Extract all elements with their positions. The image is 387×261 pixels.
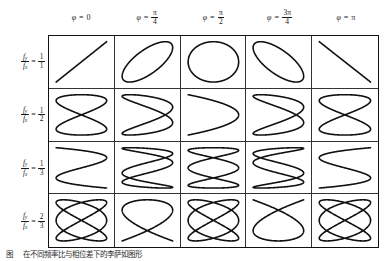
lissajous-cell-r2-c2 xyxy=(181,142,247,195)
denominator-fx: fx xyxy=(21,115,28,124)
ratio-value-fraction: 12 xyxy=(38,107,45,124)
phi-symbol: φ xyxy=(72,14,76,22)
phi-symbol: φ xyxy=(336,14,340,22)
lissajous-cell-r0-c3 xyxy=(246,36,312,89)
lissajous-curve xyxy=(254,200,305,241)
figure-caption: 图在不同频率比与相位差下的李萨如图形 xyxy=(6,250,381,259)
row-header-ratio-1: fyfx=12 xyxy=(0,88,48,141)
lissajous-cell-r1-c0 xyxy=(49,89,115,142)
lissajous-cell-r1-c1 xyxy=(115,89,181,142)
lissajous-cell-r0-c1 xyxy=(115,36,181,89)
subscript-x: x xyxy=(25,64,27,70)
lissajous-curve xyxy=(254,42,305,82)
ratio-value-fraction: 13 xyxy=(38,160,45,177)
subscript-y: y xyxy=(25,161,27,167)
row-header-ratio-3: fyfx=23 xyxy=(0,195,48,248)
phase-value: 0 xyxy=(87,14,91,22)
lissajous-curve xyxy=(188,42,239,82)
lissajous-table xyxy=(48,35,379,248)
frequency-ratio-fraction: fyfx xyxy=(21,212,28,230)
equals-sign: = xyxy=(30,217,37,226)
denominator-fx: fx xyxy=(21,169,28,178)
equals-sign: = xyxy=(78,14,85,22)
lissajous-cell-r2-c3 xyxy=(246,142,312,195)
equals-sign: = xyxy=(209,14,216,22)
frequency-ratio-fraction: fyfx xyxy=(21,159,28,177)
equals-sign: = xyxy=(30,110,37,119)
frequency-ratio-fraction: fyfx xyxy=(21,106,28,124)
equals-sign: = xyxy=(343,14,350,22)
lissajous-cell-r0-c0 xyxy=(49,36,115,89)
column-header-phase-1: φ=π4 xyxy=(114,2,180,33)
lissajous-curve xyxy=(319,200,370,241)
subscript-x: x xyxy=(25,171,27,177)
lissajous-curve xyxy=(56,94,107,134)
lissajous-curve xyxy=(122,42,173,82)
equals-sign: = xyxy=(273,14,280,22)
lissajous-curve xyxy=(319,42,370,82)
lissajous-cell-r3-c3 xyxy=(246,194,312,247)
lissajous-cell-r1-c2 xyxy=(181,89,247,142)
lissajous-cell-r1-c4 xyxy=(312,89,378,142)
column-header-phase-0: φ=0 xyxy=(48,2,114,33)
lissajous-cell-r0-c2 xyxy=(181,36,247,89)
lissajous-curve xyxy=(188,147,239,187)
lissajous-cell-r3-c0 xyxy=(49,194,115,247)
ratio-denominator: 2 xyxy=(38,115,45,123)
equals-sign: = xyxy=(143,14,150,22)
phase-value: π xyxy=(351,14,355,22)
phi-symbol: φ xyxy=(267,14,271,22)
column-header-row: φ=0φ=π4φ=π2φ=3π4φ=π xyxy=(48,2,379,33)
denominator-fx: fx xyxy=(21,62,28,71)
caption-text: 在不同频率比与相位差下的李萨如图形 xyxy=(23,250,142,259)
lissajous-curve xyxy=(122,147,173,187)
lissajous-curve xyxy=(188,200,239,241)
row-header-ratio-0: fyfx=11 xyxy=(0,35,48,88)
lissajous-cell-r0-c4 xyxy=(312,36,378,89)
phase-fraction: π4 xyxy=(151,9,158,26)
caption-label: 图 xyxy=(6,250,23,259)
subscript-y: y xyxy=(25,215,27,221)
lissajous-cell-r2-c4 xyxy=(312,142,378,195)
phase-fraction: 3π4 xyxy=(282,9,293,26)
column-header-phase-2: φ=π2 xyxy=(180,2,246,33)
lissajous-curve xyxy=(188,94,239,134)
phase-fraction: π2 xyxy=(218,9,225,26)
lissajous-figure: φ=0φ=π4φ=π2φ=3π4φ=π fyfx=11fyfx=12fyfx=1… xyxy=(0,0,387,261)
equals-sign: = xyxy=(30,57,37,66)
subscript-x: x xyxy=(25,118,27,124)
lissajous-cell-r3-c4 xyxy=(312,194,378,247)
phi-symbol: φ xyxy=(136,14,140,22)
lissajous-curve xyxy=(319,147,370,187)
phi-symbol: φ xyxy=(203,14,207,22)
lissajous-curve xyxy=(122,94,173,134)
lissajous-cell-r1-c3 xyxy=(246,89,312,142)
subscript-x: x xyxy=(25,224,27,230)
ratio-denominator: 1 xyxy=(38,62,45,70)
frequency-ratio-fraction: fyfx xyxy=(21,53,28,71)
lissajous-cell-r3-c2 xyxy=(181,194,247,247)
ratio-denominator: 3 xyxy=(38,169,45,177)
ratio-value-fraction: 23 xyxy=(38,213,45,230)
lissajous-curve xyxy=(56,147,107,187)
column-header-phase-3: φ=3π4 xyxy=(247,2,313,33)
lissajous-cell-r2-c0 xyxy=(49,142,115,195)
column-header-phase-4: φ=π xyxy=(313,2,379,33)
lissajous-cell-r3-c1 xyxy=(115,194,181,247)
fraction-denominator: 4 xyxy=(151,18,158,26)
ratio-value-fraction: 11 xyxy=(38,53,45,70)
lissajous-curve xyxy=(319,94,370,134)
row-label-column: fyfx=11fyfx=12fyfx=13fyfx=23 xyxy=(0,35,48,248)
fraction-denominator: 2 xyxy=(218,18,225,26)
lissajous-curve xyxy=(254,94,305,134)
lissajous-cell-r2-c1 xyxy=(115,142,181,195)
lissajous-curve xyxy=(56,200,107,241)
lissajous-curve xyxy=(254,147,305,187)
equals-sign: = xyxy=(30,164,37,173)
lissajous-curve xyxy=(56,42,107,82)
fraction-denominator: 4 xyxy=(284,18,291,26)
lissajous-curve xyxy=(122,200,173,241)
denominator-fx: fx xyxy=(21,222,28,231)
subscript-y: y xyxy=(25,108,27,114)
ratio-denominator: 3 xyxy=(38,222,45,230)
